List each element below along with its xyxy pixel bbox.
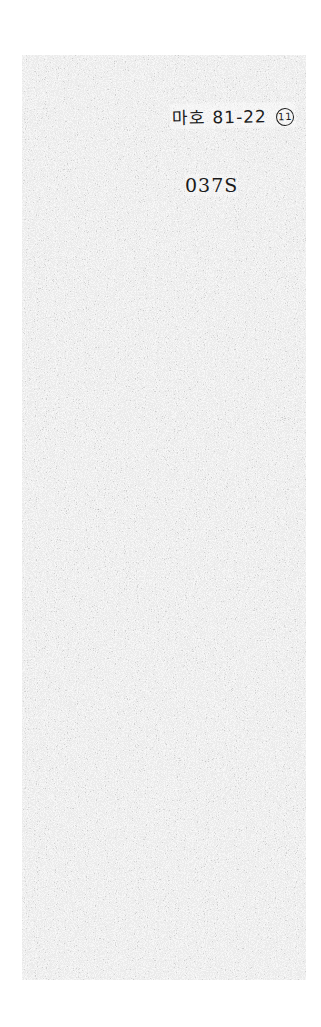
circled-number: 11	[276, 108, 294, 126]
handwritten-label-text: 마호 81-22	[172, 106, 267, 128]
handwritten-label: 마호 81-22 11	[170, 102, 297, 129]
scan-noise-texture	[22, 55, 306, 980]
top-number: 037S	[185, 174, 238, 196]
scanned-page: 마호 81-22 11 037S 0348	[22, 55, 306, 980]
